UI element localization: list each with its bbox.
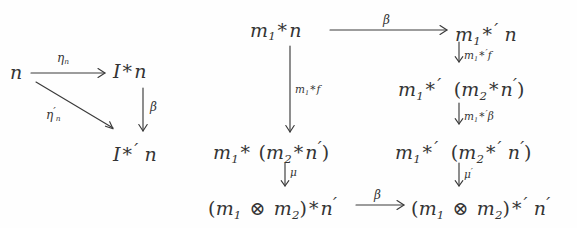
left-arrow-beta-vertical <box>139 88 147 131</box>
left-node-top-right: I*n <box>113 62 147 81</box>
right-arrow-m1f-vertical <box>286 46 294 132</box>
commutative-diagram-figure: n I*n I*′ n ηn η′n β m1*n m1*′ n m1*′ (m… <box>0 0 577 228</box>
right-label-m1-starprime-f: m1*′f <box>464 48 492 63</box>
left-label-beta: β <box>150 101 157 113</box>
right-node-bottom-left: (m1 ⊗ m2)*n′ <box>208 195 337 221</box>
left-label-eta-n: ηn <box>57 52 69 66</box>
left-node-source: n <box>10 63 22 82</box>
right-label-m1-star-f: m1*f <box>295 84 320 96</box>
right-node-mid-right-upper: m1*′ (m2*n′) <box>398 76 525 102</box>
right-label-m1-starprime-beta: m1*′β <box>464 109 494 124</box>
right-arrow-m1primebeta-vertical <box>455 103 463 124</box>
right-node-top-left: m1*n <box>250 21 302 43</box>
right-node-mid-right-lower: m1*′ (m2*′ n′) <box>395 139 532 165</box>
left-label-eta-prime-n: η′n <box>46 106 61 122</box>
right-node-top-right: m1*′ n <box>455 21 517 47</box>
right-label-beta-bottom: β <box>374 189 381 201</box>
right-label-mu-prime: μ′ <box>464 167 473 180</box>
right-node-bottom-right: (m1 ⊗ m2)*′ n′ <box>411 195 550 221</box>
right-label-mu: μ <box>290 167 297 178</box>
right-arrow-mu-vertical <box>281 163 289 186</box>
left-arrow-eta-n <box>31 69 105 78</box>
left-node-bottom-right: I*′ n <box>113 141 157 164</box>
right-arrow-muprime-vertical <box>455 163 463 186</box>
right-node-mid-left: m1* (m2*n′) <box>213 139 329 165</box>
right-label-beta-top: β <box>383 14 390 26</box>
